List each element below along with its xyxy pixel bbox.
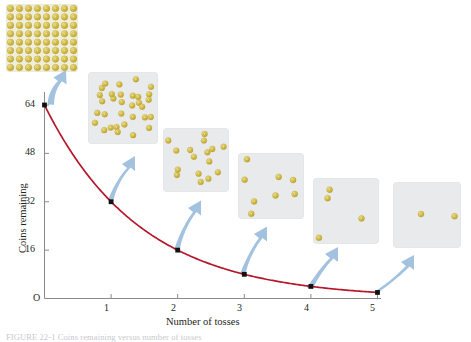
- data-point-toss-3: [242, 272, 247, 277]
- arrow-to-panel-4: [307, 247, 338, 289]
- data-point-toss-0: [42, 103, 47, 108]
- panel-toss-0-background: [6, 4, 78, 72]
- data-point-toss-5: [375, 290, 380, 295]
- coin-panels-group: [6, 4, 461, 248]
- arrow-to-panel-5: [374, 255, 414, 293]
- panel-toss-0: [6, 4, 78, 72]
- panel-toss-3: [238, 153, 304, 219]
- arrow-to-panel-3: [240, 227, 267, 275]
- x-tick-label-3: 3: [237, 303, 242, 313]
- chart-canvas: [0, 0, 471, 342]
- panel-toss-5-background: [393, 182, 461, 248]
- data-point-toss-2: [175, 248, 180, 253]
- x-tick-label-2: 2: [171, 303, 176, 313]
- panel-toss-2-background: [163, 128, 229, 192]
- data-point-toss-4: [309, 284, 314, 289]
- x-tick-label-4: 4: [304, 303, 309, 313]
- x-tick-group: [111, 294, 377, 299]
- panel-toss-1: [88, 72, 158, 144]
- y-tick-group: [45, 105, 50, 250]
- panel-toss-3-background: [238, 153, 304, 219]
- y-tick-label-64: 64: [25, 99, 35, 109]
- panel-toss-4: [313, 178, 379, 244]
- figure-caption: FIGURE 22-1 Coins remaining versus numbe…: [6, 332, 202, 342]
- arrow-to-panel-0: [48, 70, 67, 105]
- coin-decay-figure: 64 48 32 16 O 1 2 3 4 5 Coins remaining …: [0, 0, 471, 342]
- x-axis-title: Number of tosses: [166, 317, 240, 328]
- panel-toss-4-background: [313, 178, 379, 244]
- y-axis-title: Coins remaining: [18, 183, 29, 253]
- arrow-to-panel-2: [174, 201, 201, 251]
- origin-label: O: [33, 293, 40, 303]
- y-tick-label-48: 48: [25, 147, 35, 157]
- panel-toss-2: [163, 128, 229, 192]
- data-point-toss-1: [109, 199, 114, 204]
- x-tick-label-5: 5: [370, 303, 375, 313]
- panel-toss-5: [393, 182, 461, 248]
- x-tick-label-1: 1: [104, 303, 109, 313]
- arrow-to-panel-1: [108, 156, 135, 201]
- panel-toss-1-background: [88, 72, 158, 144]
